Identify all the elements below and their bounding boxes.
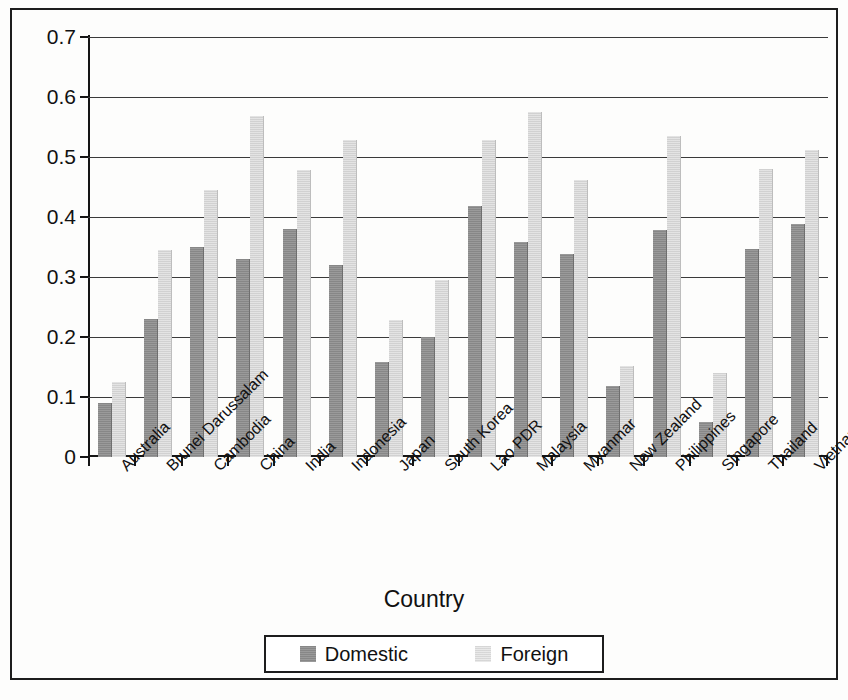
x-axis-label: Thailand: [765, 462, 778, 475]
bar-foreign: [297, 170, 311, 457]
x-axis-label: Cambodia: [210, 462, 223, 475]
x-axis-label: Malaysia: [533, 462, 546, 475]
y-tick-label: 0.7: [47, 25, 76, 49]
bar-group: [653, 37, 680, 457]
y-tick-label: 0: [64, 445, 76, 469]
x-axis-label: Australia: [117, 462, 130, 475]
bar-series-container: [88, 37, 828, 457]
y-tick-label: 0.3: [47, 265, 76, 289]
y-tick-mark: [80, 36, 88, 38]
x-axis-label: Brunei Darussalam: [163, 462, 176, 475]
legend-label-foreign: Foreign: [500, 643, 568, 666]
x-axis-label: Vietnam: [811, 462, 824, 475]
chart-legend: Domestic Foreign: [264, 635, 604, 673]
x-axis-title: Country: [0, 586, 848, 613]
legend-swatch-domestic-icon: [300, 646, 316, 662]
y-tick-label: 0.2: [47, 325, 76, 349]
bar-foreign: [435, 280, 449, 457]
bar-group: [745, 37, 772, 457]
bar-group: [375, 37, 402, 457]
plot-area: 0.70.60.50.40.30.20.10: [88, 37, 828, 457]
bar-foreign: [250, 116, 264, 457]
bar-group: [190, 37, 217, 457]
x-axis-label: Philippines: [672, 462, 685, 475]
y-tick-label: 0.1: [47, 385, 76, 409]
x-axis-label: South Korea: [441, 462, 454, 475]
bar-group: [606, 37, 633, 457]
y-tick-mark: [80, 456, 88, 458]
bar-foreign: [343, 140, 357, 457]
x-axis-label: China: [256, 462, 269, 475]
x-axis-label: Lao PDR: [487, 462, 500, 475]
x-axis-label: Japan: [395, 462, 408, 475]
bar-group: [791, 37, 818, 457]
bar-foreign: [112, 382, 126, 457]
bar-group: [283, 37, 310, 457]
x-axis-label: Singapore: [718, 462, 731, 475]
legend-entry-domestic: Domestic: [300, 643, 408, 666]
y-tick-label: 0.6: [47, 85, 76, 109]
bar-group: [421, 37, 448, 457]
y-tick-label: 0.4: [47, 205, 76, 229]
chart-page: 0.70.60.50.40.30.20.10 AustraliaBrunei D…: [0, 0, 848, 700]
x-axis-category-labels: AustraliaBrunei DarussalamCambodiaChinaI…: [88, 462, 828, 572]
bar-foreign: [805, 150, 819, 457]
bar-group: [560, 37, 587, 457]
y-tick-mark: [80, 336, 88, 338]
page-frame-bottom-rule: [10, 678, 838, 680]
y-tick-mark: [80, 396, 88, 398]
bar-foreign: [528, 112, 542, 457]
x-axis-label: India: [302, 462, 315, 475]
legend-swatch-foreign-icon: [475, 646, 491, 662]
x-axis-label: Myanmar: [580, 462, 593, 475]
x-axis-label: Indonesia: [348, 462, 361, 475]
y-tick-mark: [80, 96, 88, 98]
bar-domestic: [468, 206, 482, 457]
bar-group: [468, 37, 495, 457]
bar-group: [144, 37, 171, 457]
bar-group: [514, 37, 541, 457]
x-axis-label: New Zealand: [626, 462, 639, 475]
bar-domestic: [98, 403, 112, 457]
legend-entry-foreign: Foreign: [475, 643, 568, 666]
y-tick-label: 0.5: [47, 145, 76, 169]
bar-domestic: [283, 229, 297, 457]
bar-group: [98, 37, 125, 457]
y-tick-mark: [80, 276, 88, 278]
y-tick-mark: [80, 156, 88, 158]
y-tick-mark: [80, 216, 88, 218]
bar-domestic: [329, 265, 343, 457]
bar-group: [329, 37, 356, 457]
bar-foreign: [574, 180, 588, 457]
bar-group: [699, 37, 726, 457]
legend-label-domestic: Domestic: [325, 643, 408, 666]
